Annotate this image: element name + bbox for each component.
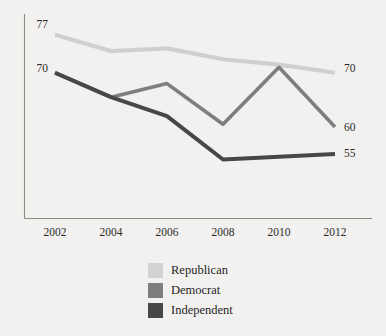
- left-axis-label-1: 70: [37, 62, 49, 74]
- right-axis-label-0: 70: [344, 62, 356, 74]
- legend-label: Independent: [171, 304, 233, 317]
- x-axis-tick-labels: 200220042006200820102012: [44, 226, 347, 238]
- x-tick-label-2010: 2010: [268, 226, 291, 238]
- legend-swatch-independent: [148, 303, 163, 318]
- legend-swatch-democrat: [148, 283, 163, 298]
- left-axis-labels: 7770: [37, 18, 49, 74]
- right-axis-labels: 706055: [344, 62, 356, 159]
- x-tick-label-2012: 2012: [324, 226, 347, 238]
- x-tick-label-2004: 2004: [100, 226, 123, 238]
- chart-legend: RepublicanDemocratIndependent: [148, 262, 233, 319]
- legend-item-democrat[interactable]: Democrat: [148, 282, 233, 299]
- x-tick-label-2008: 2008: [212, 226, 235, 238]
- series-line-republican: [55, 35, 335, 73]
- series-line-independent: [55, 73, 335, 160]
- legend-label: Democrat: [171, 284, 220, 297]
- legend-swatch-republican: [148, 263, 163, 278]
- line-chart: 7770 706055 200220042006200820102012 Rep…: [0, 0, 386, 336]
- legend-item-republican[interactable]: Republican: [148, 262, 233, 279]
- right-axis-label-2: 55: [344, 147, 356, 159]
- legend-label: Republican: [171, 264, 228, 277]
- series-group: [55, 35, 335, 160]
- left-axis-label-0: 77: [37, 18, 49, 30]
- series-line-democrat: [55, 67, 335, 127]
- x-tick-label-2006: 2006: [156, 226, 179, 238]
- legend-item-independent[interactable]: Independent: [148, 302, 233, 319]
- right-axis-label-1: 60: [344, 121, 356, 133]
- x-tick-label-2002: 2002: [44, 226, 67, 238]
